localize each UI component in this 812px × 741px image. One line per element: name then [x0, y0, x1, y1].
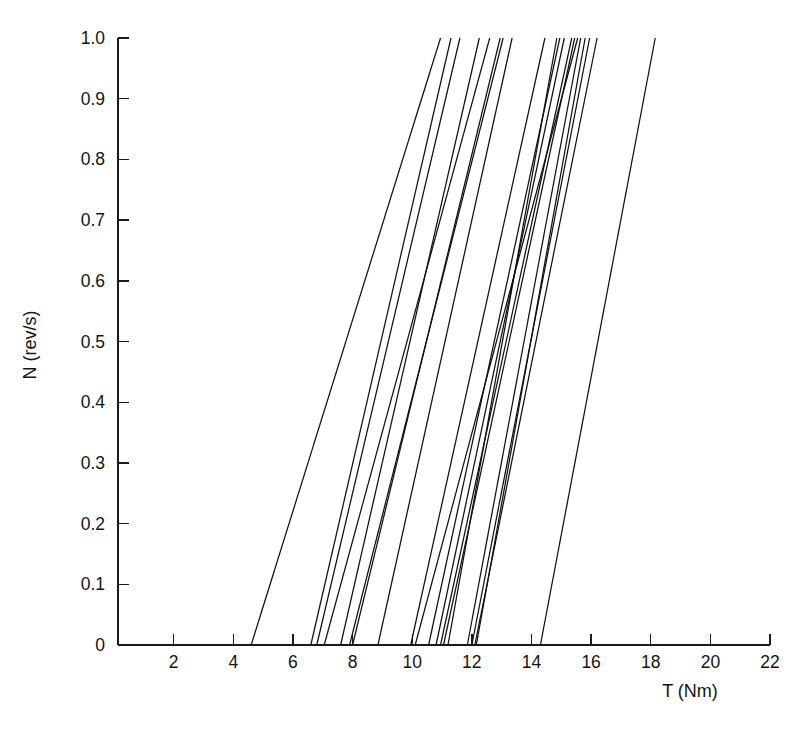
x-axis-title: T (Nm) [662, 681, 718, 701]
x-tick-label: 8 [348, 652, 358, 672]
data-line [378, 38, 512, 645]
y-tick-label: 0.4 [81, 392, 106, 412]
y-tick-label: 0.8 [81, 149, 105, 169]
data-line [441, 38, 572, 645]
data-lines [251, 38, 655, 645]
y-tick-label: 0.7 [81, 210, 105, 230]
x-tick-label: 4 [228, 652, 238, 672]
data-line [444, 38, 575, 645]
y-tick-label: 0.6 [81, 271, 105, 291]
data-line [415, 38, 578, 645]
data-line [540, 38, 655, 645]
x-tick-label: 22 [760, 652, 779, 672]
x-tick-label: 20 [701, 652, 721, 672]
data-line [467, 38, 580, 645]
x-tick-label: 16 [581, 652, 600, 672]
y-tick-label: 0.5 [81, 332, 105, 352]
axis-ticks [118, 38, 770, 645]
y-axis-title: N (rev/s) [20, 311, 40, 380]
x-tick-label: 10 [402, 652, 422, 672]
chart-figure: 00.10.20.30.40.50.60.70.80.91.0246810121… [0, 0, 812, 741]
x-tick-label: 6 [288, 652, 298, 672]
data-line [436, 38, 564, 645]
data-line [476, 38, 585, 645]
speed-torque-plot: 00.10.20.30.40.50.60.70.80.91.0246810121… [0, 0, 812, 741]
y-tick-label: 0.2 [81, 514, 105, 534]
data-line [251, 38, 440, 645]
x-tick-label: 18 [641, 652, 660, 672]
x-tick-label: 2 [169, 652, 179, 672]
x-tick-label: 12 [462, 652, 481, 672]
axis-tick-labels: 00.10.20.30.40.50.60.70.80.91.0246810121… [81, 28, 780, 672]
y-tick-label: 0.9 [81, 89, 105, 109]
y-tick-label: 0 [95, 635, 105, 655]
x-tick-label: 14 [522, 652, 542, 672]
data-line [317, 38, 460, 645]
data-line [341, 38, 480, 645]
y-tick-label: 0.1 [81, 574, 105, 594]
data-line [311, 38, 451, 645]
axes [118, 38, 770, 645]
y-tick-label: 0.3 [81, 453, 105, 473]
y-tick-label: 1.0 [81, 28, 106, 48]
